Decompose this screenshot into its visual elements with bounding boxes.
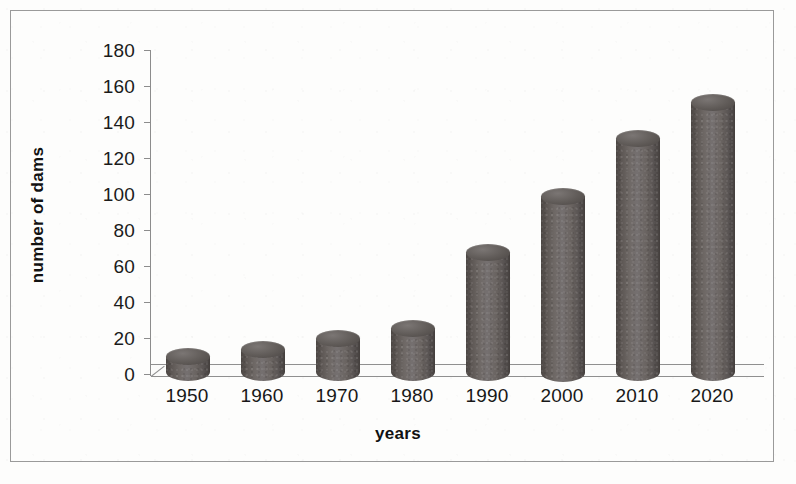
bar-1980 xyxy=(391,320,435,375)
chart-plot-area: number of dams 180 160 140 120 100 80 60… xyxy=(0,0,796,484)
bar-body xyxy=(691,102,735,381)
y-tick-label-20: 20 xyxy=(75,329,135,348)
y-tick-label-100: 100 xyxy=(75,185,135,204)
bar-1960 xyxy=(241,341,285,375)
y-axis-line xyxy=(150,50,151,376)
bar-2000 xyxy=(541,188,585,375)
bar-texture xyxy=(541,196,585,381)
figure-page: number of dams 180 160 140 120 100 80 60… xyxy=(0,0,796,484)
bar-body xyxy=(616,138,660,381)
y-tick-180 xyxy=(144,50,151,51)
x-axis-tick-labels: 1950 1960 1970 1980 1990 2000 2010 2020 xyxy=(0,386,796,416)
bar-body xyxy=(541,196,585,381)
y-tick-label-40: 40 xyxy=(75,293,135,312)
y-tick-label-60: 60 xyxy=(75,257,135,276)
bar-texture xyxy=(616,138,660,381)
y-tick-label-0: 0 xyxy=(75,365,135,384)
bar-top-ellipse xyxy=(616,130,660,147)
bar-top-ellipse xyxy=(691,94,735,111)
y-axis-title: number of dams xyxy=(28,115,48,315)
y-tick-0 xyxy=(144,374,151,375)
bar-texture xyxy=(691,102,735,381)
y-tick-label-120: 120 xyxy=(75,149,135,168)
x-tick-label-1950: 1950 xyxy=(150,386,224,405)
bar-top-ellipse xyxy=(391,320,435,337)
x-tick-label-1960: 1960 xyxy=(225,386,299,405)
y-tick-label-80: 80 xyxy=(75,221,135,240)
y-tick-140 xyxy=(144,122,151,123)
bar-2010 xyxy=(616,130,660,375)
y-tick-160 xyxy=(144,86,151,87)
x-tick-label-1990: 1990 xyxy=(450,386,524,405)
y-tick-60 xyxy=(144,266,151,267)
x-tick-label-2020: 2020 xyxy=(675,386,749,405)
x-tick-label-2000: 2000 xyxy=(525,386,599,405)
bar-1990 xyxy=(466,244,510,375)
y-tick-120 xyxy=(144,158,151,159)
y-tick-label-140: 140 xyxy=(75,113,135,132)
y-tick-20 xyxy=(144,338,151,339)
x-tick-label-1980: 1980 xyxy=(375,386,449,405)
y-tick-40 xyxy=(144,302,151,303)
bar-1970 xyxy=(316,330,360,375)
y-tick-label-160: 160 xyxy=(75,77,135,96)
plot-floor-left-edge xyxy=(151,364,165,377)
bar-2020 xyxy=(691,94,735,375)
bar-top-ellipse xyxy=(466,244,510,261)
bar-top-ellipse xyxy=(541,188,585,205)
y-tick-100 xyxy=(144,194,151,195)
x-tick-label-1970: 1970 xyxy=(300,386,374,405)
y-tick-label-180: 180 xyxy=(75,41,135,60)
bar-texture xyxy=(466,252,510,381)
y-tick-80 xyxy=(144,230,151,231)
x-tick-label-2010: 2010 xyxy=(600,386,674,405)
bar-body xyxy=(466,252,510,381)
x-axis-title: years xyxy=(0,424,796,444)
bar-1950 xyxy=(166,348,210,375)
